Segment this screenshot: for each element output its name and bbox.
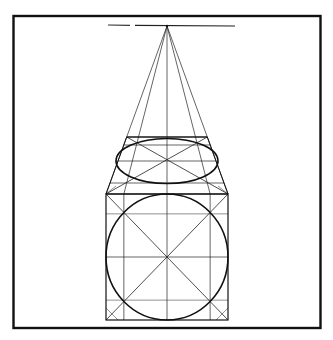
top-diagonal: [106, 137, 207, 194]
horizon-line: [108, 25, 235, 26]
top-diagonal: [127, 137, 228, 194]
vanishing-point: [166, 25, 168, 27]
horizon-line-main-segment: [135, 25, 235, 26]
vanishing-line: [167, 26, 210, 194]
perspective-cube-diagram: [0, 0, 333, 340]
diagram-canvas: [0, 0, 333, 340]
vanishing-line: [124, 26, 167, 194]
